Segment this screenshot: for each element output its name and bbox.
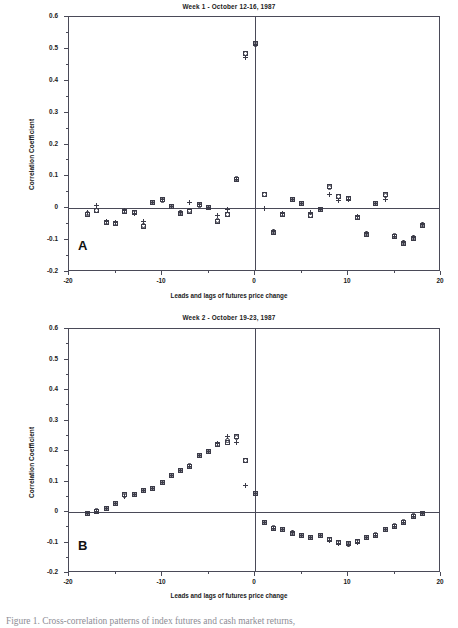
panel-b-y-axis-title: Correlation Coefficient [28,427,35,498]
y-tick-mark [64,16,68,17]
y-tick-mark [64,80,68,81]
data-point-plus [401,240,406,245]
x-tick-mark [161,572,162,576]
data-point-plus [383,197,388,202]
x-tick-label: 0 [239,277,269,284]
data-point-plus [253,491,258,496]
x-tick-mark [254,572,255,576]
data-point-plus [355,540,360,545]
data-point-plus [290,197,295,202]
data-point-plus [104,219,109,224]
y-tick-label: 0.3 [32,108,58,115]
data-point-plus [150,486,155,491]
data-point-plus [271,229,276,234]
panel-a-y-axis-title: Correlation Coefficient [28,119,35,190]
data-point-plus [308,535,313,540]
data-point-plus [169,204,174,209]
data-point-plus [336,541,341,546]
x-tick-label: -20 [53,578,83,585]
data-point-plus [234,440,239,445]
y-minor-tick-mark [66,404,68,405]
data-point-plus [253,42,258,47]
data-point-plus [346,542,351,547]
x-minor-tick-mark [301,271,302,273]
y-tick-mark [64,481,68,482]
data-point-plus [94,203,99,208]
data-point-plus [225,434,230,439]
data-point-plus [169,473,174,478]
data-point-plus [392,234,397,239]
panel-b: Week 2 - October 19-23, 1987 Correlation… [0,310,458,610]
x-tick-label: 0 [239,578,269,585]
data-point-circle [327,185,332,190]
data-point-plus [364,535,369,540]
data-point-plus [85,210,90,215]
data-point-plus [85,511,90,516]
y-minor-tick-mark [66,557,68,558]
data-point-plus [392,524,397,529]
x-tick-label: -20 [53,277,83,284]
y-tick-mark [64,511,68,512]
x-tick-label: -10 [146,578,176,585]
x-minor-tick-mark [301,572,302,574]
data-point-plus [420,222,425,227]
data-point-plus [308,210,313,215]
panel-a-letter: A [78,238,87,253]
data-point-plus [187,464,192,469]
y-tick-label: 0.1 [32,477,58,484]
panel-a: Week 1 - October 12-16, 1987 Correlation… [0,0,458,312]
y-tick-label: 0.4 [32,385,58,392]
y-minor-tick-mark [66,191,68,192]
x-minor-tick-mark [208,572,209,574]
y-tick-mark [64,175,68,176]
panel-a-title: Week 1 - October 12-16, 1987 [0,3,458,10]
data-point-plus [411,514,416,519]
y-tick-mark [64,542,68,543]
y-minor-tick-mark [66,374,68,375]
data-point-plus [187,200,192,205]
x-tick-label: 10 [332,277,362,284]
data-point-plus [104,506,109,511]
y-tick-mark [64,450,68,451]
x-minor-tick-mark [208,271,209,273]
x-tick-mark [68,271,69,275]
y-tick-label: 0.3 [32,416,58,423]
data-point-plus [290,530,295,535]
x-tick-label: 20 [425,277,455,284]
data-point-plus [206,449,211,454]
y-tick-label: 0.6 [32,12,58,19]
data-point-plus [355,214,360,219]
y-tick-label: -0.1 [32,235,58,242]
y-tick-label: 0.2 [32,140,58,147]
y-minor-tick-mark [66,343,68,344]
data-point-plus [318,207,323,212]
y-tick-mark [64,48,68,49]
x-tick-mark [440,271,441,275]
data-point-plus [160,197,165,202]
y-tick-label: 0.2 [32,446,58,453]
y-tick-label: 0.6 [32,324,58,331]
y-minor-tick-mark [66,96,68,97]
panel-b-plot-frame [68,328,440,572]
figure-root: Week 1 - October 12-16, 1987 Correlation… [0,0,458,628]
data-point-plus [122,208,127,213]
y-tick-mark [64,420,68,421]
y-tick-mark [64,144,68,145]
data-point-plus [299,201,304,206]
zero-horizontal-line [69,512,439,513]
data-point-plus [113,220,118,225]
x-tick-mark [347,271,348,275]
y-minor-tick-mark [66,32,68,33]
y-tick-label: 0 [32,507,58,514]
y-tick-label: 0.1 [32,171,58,178]
data-point-plus [122,494,127,499]
y-tick-label: 0 [32,203,58,210]
data-point-plus [373,201,378,206]
data-point-plus [262,520,267,525]
y-minor-tick-mark [66,496,68,497]
data-point-plus [94,509,99,514]
x-tick-label: 20 [425,578,455,585]
x-tick-mark [440,572,441,576]
data-point-plus [280,527,285,532]
data-point-plus [318,533,323,538]
